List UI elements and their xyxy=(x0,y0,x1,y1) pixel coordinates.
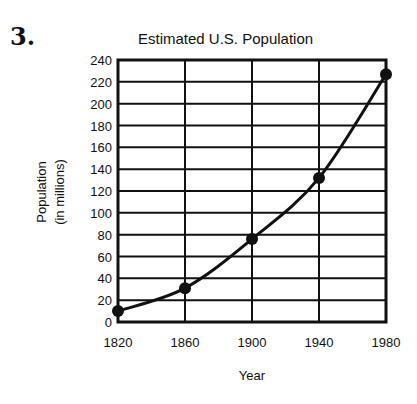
line-chart: 020406080100120140160180200220240 182018… xyxy=(0,0,417,404)
y-axis-ticks: 020406080100120140160180200220240 xyxy=(90,53,112,330)
y-tick-label: 0 xyxy=(105,315,112,330)
x-tick-label: 1900 xyxy=(238,335,267,350)
y-tick-label: 180 xyxy=(90,119,112,134)
data-point-marker xyxy=(246,233,258,245)
y-tick-label: 220 xyxy=(90,75,112,90)
y-tick-label: 20 xyxy=(98,293,112,308)
y-tick-label: 120 xyxy=(90,184,112,199)
y-tick-label: 140 xyxy=(90,162,112,177)
y-tick-label: 240 xyxy=(90,53,112,68)
y-axis-label-units: (in millions) xyxy=(52,159,67,225)
data-point-marker xyxy=(313,172,325,184)
data-point-marker xyxy=(380,68,392,80)
y-tick-label: 200 xyxy=(90,97,112,112)
y-tick-label: 100 xyxy=(90,206,112,221)
x-axis-label: Year xyxy=(239,368,266,383)
chart-grid xyxy=(118,60,386,322)
y-tick-label: 40 xyxy=(98,271,112,286)
x-tick-label: 1820 xyxy=(104,335,133,350)
y-axis-label: Population xyxy=(34,161,49,222)
y-tick-label: 80 xyxy=(98,228,112,243)
x-tick-label: 1940 xyxy=(305,335,334,350)
y-tick-label: 160 xyxy=(90,140,112,155)
data-point-marker xyxy=(179,282,191,294)
y-tick-label: 60 xyxy=(98,250,112,265)
data-point-marker xyxy=(112,305,124,317)
x-axis-ticks: 18201860190019401980 xyxy=(104,335,401,350)
x-tick-label: 1860 xyxy=(171,335,200,350)
x-tick-label: 1980 xyxy=(372,335,401,350)
